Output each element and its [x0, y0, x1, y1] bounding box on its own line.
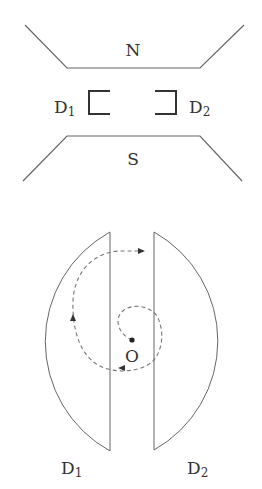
d2-top-label: D2 [187, 458, 208, 480]
d2-side-label: D2 [189, 97, 210, 119]
d1-top-label: D1 [61, 458, 82, 480]
d2-dee-outline [154, 232, 218, 450]
d2-side-bracket [155, 91, 176, 114]
d1-side-label: D1 [54, 97, 75, 119]
south-label: S [127, 149, 139, 169]
arrow-left-up-icon [70, 314, 76, 321]
particle-trajectory [73, 251, 162, 371]
center-point [129, 337, 134, 342]
d1-dee-outline [45, 232, 110, 451]
arrow-top-icon [138, 248, 145, 254]
north-label: N [126, 40, 141, 60]
arrow-bottom-icon [118, 365, 125, 371]
d1-side-bracket [89, 91, 110, 114]
cyclotron-diagram: N D1 D2 S O D1 D2 [0, 0, 262, 489]
center-label: O [125, 346, 139, 366]
